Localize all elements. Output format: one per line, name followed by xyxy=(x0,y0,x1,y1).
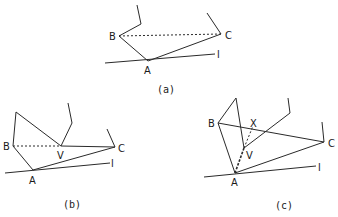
label-l: l xyxy=(318,161,321,174)
label-l: l xyxy=(217,48,220,61)
label-l: l xyxy=(111,157,114,170)
label-a: A xyxy=(144,64,151,77)
label-a: A xyxy=(29,174,36,187)
path-b-a-c xyxy=(119,5,221,61)
dashed-bc xyxy=(119,34,221,36)
label-b: B xyxy=(3,140,10,153)
caption-b: (b) xyxy=(63,199,81,210)
path-a-b-top-v xyxy=(218,98,244,173)
label-c: C xyxy=(118,142,125,155)
label-v: V xyxy=(57,149,64,162)
line-l xyxy=(5,163,110,173)
label-a: A xyxy=(231,176,238,189)
label-b: B xyxy=(208,117,215,130)
line-bc xyxy=(218,123,324,142)
label-b: B xyxy=(109,30,116,43)
line-vc xyxy=(61,146,115,147)
dashed-av xyxy=(235,148,244,173)
line-l xyxy=(105,54,215,63)
panel-a: B C A l (a) xyxy=(105,5,232,95)
caption-c: (c) xyxy=(275,200,293,211)
label-x: X xyxy=(250,117,257,130)
geometry-figure: B C A l (a) B V C A l (b) B X V C A l (c… xyxy=(0,0,338,217)
caption-a: (a) xyxy=(157,84,175,95)
panel-b: B V C A l (b) xyxy=(3,103,125,210)
label-c: C xyxy=(225,29,232,42)
path-a-c xyxy=(235,122,324,173)
line-l xyxy=(204,166,316,177)
panel-c: B X V C A l (c) xyxy=(204,98,335,211)
label-c: C xyxy=(328,137,335,150)
label-v: V xyxy=(246,149,253,162)
